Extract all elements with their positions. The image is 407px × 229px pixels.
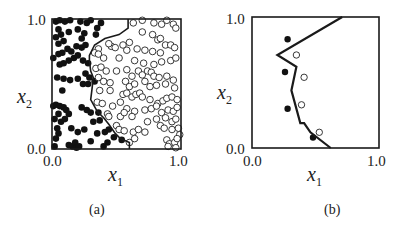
filled-data-point [96, 117, 103, 124]
open-data-point [130, 20, 137, 27]
filled-data-point [78, 35, 85, 42]
panel-a-x-axis-label: x1 [107, 163, 123, 189]
open-data-point [142, 129, 149, 136]
open-data-point [173, 55, 180, 62]
panel-b-x-axis-label: x1 [306, 163, 322, 189]
open-data-point [173, 144, 180, 151]
open-data-point [126, 39, 133, 46]
open-data-point [174, 96, 181, 103]
open-data-point [149, 31, 156, 38]
open-data-point [121, 109, 128, 116]
filled-data-point [90, 118, 97, 125]
filled-data-point [282, 69, 288, 75]
panel-a-x-tick-max: 1.0 [169, 153, 188, 169]
open-data-point [112, 44, 119, 51]
filled-data-point [85, 81, 92, 88]
open-data-point [109, 103, 116, 110]
open-data-point [140, 60, 147, 67]
open-data-point [171, 85, 178, 92]
filled-data-point [66, 29, 73, 36]
open-data-point [149, 48, 156, 55]
open-data-point [129, 113, 136, 120]
panel-a-points [50, 17, 183, 151]
filled-data-point [75, 129, 82, 136]
open-data-point [151, 61, 158, 68]
open-data-point [131, 135, 138, 142]
filled-data-point [62, 116, 69, 123]
open-data-point [142, 107, 149, 114]
open-data-point [158, 59, 165, 66]
open-data-point [100, 55, 107, 62]
panel-b: 1.0 0.0 0.0 1.0 x2 x1 (b) [216, 11, 386, 218]
filled-data-point [53, 135, 60, 142]
open-data-point [151, 20, 158, 27]
open-data-point [157, 50, 164, 57]
open-data-point [139, 17, 146, 24]
filled-data-point [75, 52, 82, 59]
panel-b-x-tick-min: 0.0 [243, 153, 262, 169]
panel-b-y-axis-label: x2 [216, 81, 232, 107]
open-data-point [174, 135, 181, 142]
open-data-point [162, 81, 169, 88]
panel-b-x-tick-max: 1.0 [367, 153, 386, 169]
panel-a-x-tick-min: 0.0 [43, 153, 62, 169]
open-data-point [106, 40, 113, 47]
open-data-point [129, 73, 136, 80]
filled-data-point [67, 17, 74, 24]
filled-data-point [60, 76, 67, 83]
open-data-point [116, 55, 123, 62]
open-data-point [134, 46, 141, 53]
open-data-point [117, 99, 124, 106]
open-data-point [139, 94, 146, 101]
filled-data-point [93, 31, 100, 38]
open-data-point [174, 104, 181, 111]
figure: 1.0 0.0 0.0 1.0 x2 x1 (a) 1.0 0.0 0.0 1.… [0, 0, 407, 229]
open-data-point [107, 87, 114, 94]
open-data-point [100, 78, 107, 85]
open-data-point [157, 35, 164, 42]
open-data-point [164, 17, 171, 24]
filled-data-point [94, 130, 101, 137]
panel-b-caption: (b) [324, 202, 341, 218]
filled-data-point [87, 138, 94, 145]
open-data-point [124, 47, 131, 54]
open-data-point [173, 25, 180, 32]
filled-data-point [75, 76, 82, 83]
open-data-point [173, 116, 180, 123]
open-data-point [162, 115, 169, 122]
open-data-point [142, 47, 149, 54]
filled-data-point [82, 42, 89, 49]
open-data-point [156, 74, 163, 81]
open-data-point [131, 81, 138, 88]
filled-data-point [67, 77, 74, 84]
open-data-point [131, 57, 138, 64]
open-data-point [153, 103, 160, 110]
panel-b-plot-frame [252, 17, 379, 148]
panel-a-caption: (a) [89, 202, 105, 218]
filled-data-point [81, 126, 88, 133]
open-data-point [301, 74, 307, 80]
panel-a: 1.0 0.0 0.0 1.0 x2 x1 (a) [16, 12, 188, 218]
open-data-point [113, 68, 120, 75]
open-data-point [153, 82, 160, 89]
open-data-point [171, 44, 178, 51]
open-data-point [142, 78, 149, 85]
open-data-point [96, 87, 103, 94]
open-data-point [153, 116, 160, 123]
open-data-point [170, 77, 177, 84]
open-data-point [121, 128, 128, 135]
panel-b-y-tick-max: 1.0 [226, 11, 245, 27]
filled-data-point [60, 38, 67, 45]
open-data-point [169, 126, 176, 133]
open-data-point [316, 129, 322, 135]
open-data-point [293, 52, 299, 58]
open-data-point [106, 113, 113, 120]
filled-data-point [54, 74, 61, 81]
open-data-point [99, 100, 106, 107]
open-data-point [135, 126, 142, 133]
panel-a-y-tick-max: 1.0 [27, 12, 46, 28]
open-data-point [147, 83, 154, 90]
filled-data-point [58, 31, 65, 38]
open-data-point [124, 66, 131, 73]
panel-b-y-tick-min: 0.0 [226, 141, 245, 157]
